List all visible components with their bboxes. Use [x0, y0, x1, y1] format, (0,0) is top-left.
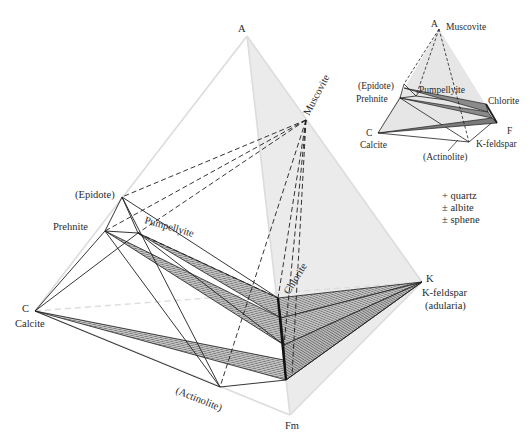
- inset-label-calcite: Calcite: [360, 140, 387, 150]
- inset-label-chlorite: Chlorite: [488, 96, 519, 106]
- inset-label-actinolite: (Actinolite): [423, 152, 467, 163]
- legend-quartz: + quartz: [442, 190, 480, 202]
- figure-canvas: A C Fm K Muscovite (Epidote) Prehnite Pu…: [0, 0, 532, 435]
- inset-vertex-A: A: [431, 19, 438, 29]
- inset-triangle: A Muscovite (Epidote) Pumpellyite Prehni…: [356, 19, 519, 163]
- main-tetrahedron: A C Fm K Muscovite (Epidote) Prehnite Pu…: [15, 23, 467, 431]
- vertex-label-K: K: [426, 273, 434, 284]
- legend-sphene: ± sphene: [442, 214, 480, 226]
- inset-label-epidote: (Epidote): [358, 81, 394, 92]
- label-actinolite: (Actinolite): [174, 385, 224, 415]
- label-calcite: Calcite: [15, 318, 45, 329]
- vertex-label-Fm: Fm: [285, 420, 299, 431]
- inset-label-kfeldspar: K-feldspar: [476, 139, 517, 149]
- label-pumpellyite: Pumpellyite: [143, 214, 195, 239]
- inset-label-muscovite: Muscovite: [446, 22, 486, 32]
- vertex-label-C: C: [22, 303, 29, 314]
- label-adularia: (adularia): [425, 300, 466, 312]
- inset-shaded-triangle: [378, 29, 497, 133]
- actinolite-leader: [448, 140, 458, 151]
- inset-vertex-F: F: [507, 126, 512, 136]
- vertex-label-A: A: [238, 23, 246, 34]
- label-muscovite: Muscovite: [301, 72, 332, 117]
- label-epidote: (Epidote): [75, 189, 115, 201]
- assemblage-legend: + quartz ± albite ± sphene: [442, 190, 480, 226]
- legend-albite: ± albite: [442, 202, 480, 214]
- label-kfeldspar: K-feldspar: [422, 287, 467, 298]
- label-prehnite: Prehnite: [53, 221, 88, 232]
- inset-label-prehnite: Prehnite: [356, 94, 388, 104]
- inset-label-pumpellyite: Pumpellyite: [419, 85, 465, 95]
- inset-vertex-C: C: [366, 128, 372, 138]
